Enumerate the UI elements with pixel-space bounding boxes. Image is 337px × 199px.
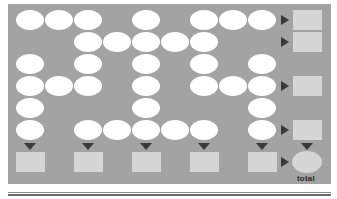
- grid-oval: [132, 54, 160, 74]
- grid-oval: [103, 32, 131, 52]
- arrow-right-icon: [281, 125, 289, 135]
- grid-oval: [248, 76, 276, 96]
- row-sum-box: [293, 32, 322, 52]
- total-label: total: [297, 174, 315, 183]
- grid-oval: [248, 10, 276, 30]
- grid-oval: [74, 76, 102, 96]
- grid-oval: [219, 10, 247, 30]
- grid-oval: [248, 98, 276, 118]
- grid-oval: [190, 76, 218, 96]
- grid-oval: [16, 98, 44, 118]
- arrow-right-icon: [281, 157, 289, 167]
- grid-oval: [132, 76, 160, 96]
- grid-oval: [74, 54, 102, 74]
- column-sum-box: [132, 152, 161, 172]
- divider-line: [8, 194, 331, 196]
- row-sum-box: [293, 120, 322, 140]
- arrow-down-icon: [301, 143, 313, 150]
- grid-oval: [132, 32, 160, 52]
- grid-oval: [161, 32, 189, 52]
- grid-oval: [16, 76, 44, 96]
- grid-oval: [74, 32, 102, 52]
- grid-oval: [16, 120, 44, 140]
- grid-oval: [248, 120, 276, 140]
- grid-oval: [74, 10, 102, 30]
- arrow-right-icon: [281, 15, 289, 25]
- column-sum-box: [248, 152, 277, 172]
- grid-oval: [190, 54, 218, 74]
- grid-oval: [161, 120, 189, 140]
- grid-oval: [45, 10, 73, 30]
- grid-oval: [248, 54, 276, 74]
- grid-oval: [190, 32, 218, 52]
- column-sum-box: [190, 152, 219, 172]
- grid-oval: [132, 98, 160, 118]
- row-sum-box: [293, 76, 322, 96]
- grid-oval: [190, 10, 218, 30]
- grid-oval: [16, 10, 44, 30]
- grid-oval: [190, 120, 218, 140]
- grid-oval: [219, 76, 247, 96]
- arrow-down-icon: [24, 143, 36, 150]
- arrow-down-icon: [82, 143, 94, 150]
- total-oval: [292, 151, 322, 173]
- grid-oval: [45, 76, 73, 96]
- grid-oval: [103, 120, 131, 140]
- arrow-down-icon: [198, 143, 210, 150]
- arrow-down-icon: [256, 143, 268, 150]
- grid-oval: [74, 120, 102, 140]
- column-sum-box: [74, 152, 103, 172]
- divider-line: [8, 192, 331, 193]
- grid-oval: [132, 10, 160, 30]
- grid-oval: [16, 54, 44, 74]
- arrow-right-icon: [281, 37, 289, 47]
- arrow-right-icon: [281, 81, 289, 91]
- column-sum-box: [16, 152, 45, 172]
- row-sum-box: [293, 10, 322, 30]
- arrow-down-icon: [140, 143, 152, 150]
- grid-oval: [132, 120, 160, 140]
